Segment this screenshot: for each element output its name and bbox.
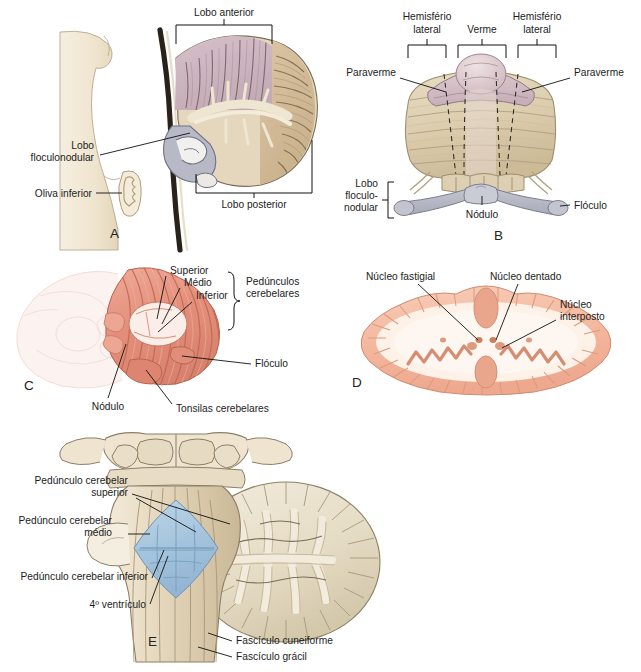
panel-b-label-nodulo: Nódulo xyxy=(466,209,499,220)
panel-e: Pedúnculo cerebelar superior Pedúnculo c… xyxy=(0,428,420,672)
panel-b-bracket-floculonodular xyxy=(382,182,394,218)
panel-a-cerebellum xyxy=(119,30,330,216)
panel-c-brace-pedunculos xyxy=(228,272,240,330)
panel-e-label-ped-superior-line2: superior xyxy=(91,487,128,498)
panel-d: Núcleo fastigial Núcleo dentado Núcleo i… xyxy=(330,252,641,430)
panel-b-label-verme: Verme xyxy=(467,24,497,35)
panel-b-label-floculonodular-line1: Lobo xyxy=(355,178,378,189)
panel-d-label-nucleo-fastigial: Núcleo fastigial xyxy=(366,271,435,282)
panel-d-vermis-superior xyxy=(474,288,498,328)
panel-c-label-inferior: Inferior xyxy=(196,290,228,301)
panel-b-label-floculo: Flóculo xyxy=(574,200,607,211)
panel-b-label-paraverme-dir: Paraverme xyxy=(574,67,624,78)
panel-c: Superior Médio Inferior Pedúnculos cereb… xyxy=(0,252,340,430)
panel-e-letter: E xyxy=(148,634,157,649)
panel-b-bracket-hemisfero-dir xyxy=(518,39,556,58)
panel-a-label-lobo-anterior: Lobo anterior xyxy=(194,7,255,18)
panel-c-label-nodulo: Nódulo xyxy=(92,401,125,412)
panel-c-label-superior: Superior xyxy=(170,265,209,276)
panel-a-label-lobo-posterior: Lobo posterior xyxy=(221,199,287,210)
panel-b-label-hemisferio-esq-line1: Hemisfério xyxy=(403,11,452,22)
panel-c-label-floculo: Flóculo xyxy=(255,358,288,369)
panel-d-label-nucleo-dentado: Núcleo dentado xyxy=(490,271,562,282)
panel-c-label-medio: Médio xyxy=(184,277,212,288)
panel-c-label-tonsilas: Tonsilas cerebelares xyxy=(176,403,269,414)
panel-b-cerebellum xyxy=(394,54,568,216)
panel-d-label-nucleo-interposto-line1: Núcleo xyxy=(560,299,592,310)
panel-b-label-hemisferio-esq-line2: lateral xyxy=(413,24,441,35)
panel-c-label-pedunculos-line2: cerebelares xyxy=(246,288,299,299)
panel-b-label-paraverme-esq: Paraverme xyxy=(346,67,396,78)
panel-d-vermis-inferior xyxy=(475,356,497,388)
panel-b-label-hemisferio-dir-line1: Hemisfério xyxy=(513,11,562,22)
panel-b-label-hemisferio-dir-line2: lateral xyxy=(523,24,551,35)
panel-b-bracket-hemisfero-esq xyxy=(408,39,446,58)
panel-b-letter: B xyxy=(494,228,503,243)
anatomy-figure: Lobo anterior Lobo posterior Lobo flocul… xyxy=(0,0,641,672)
panel-b-label-floculonodular-line3: nodular xyxy=(344,202,379,213)
panel-e-label-ped-medio-line2: médio xyxy=(84,527,112,538)
panel-a-inferior-olive xyxy=(119,171,141,216)
panel-e-label-fasc-gracil: Fascículo grácil xyxy=(236,651,307,662)
panel-d-letter: D xyxy=(352,375,362,390)
panel-e-label-ped-inferior: Pedúnculo cerebelar inferior xyxy=(21,571,149,582)
panel-a-label-lobo-floculonodular-line1: Lobo xyxy=(71,140,94,151)
panel-a-label-oliva-inferior: Oliva inferior xyxy=(35,188,93,199)
panel-c-label-pedunculos-line1: Pedúnculos xyxy=(246,276,299,287)
panel-a-label-lobo-floculonodular-line2: floculonodular xyxy=(31,152,95,163)
panel-d-label-nucleo-interposto-line2: interposto xyxy=(560,311,605,322)
panel-c-peduncles xyxy=(129,302,187,346)
panel-b: Hemisfério lateral Verme Hemisfério late… xyxy=(330,0,641,250)
panel-e-label-ped-superior-line1: Pedúnculo cerebelar xyxy=(35,475,129,486)
panel-e-label-ped-medio-line1: Pedúnculo cerebelar xyxy=(19,515,113,526)
panel-a: Lobo anterior Lobo posterior Lobo flocul… xyxy=(0,0,330,250)
panel-b-label-floculonodular-line2: floculo- xyxy=(345,190,378,201)
panel-a-letter: A xyxy=(110,226,119,241)
panel-e-label-fasc-cuneiforme: Fascículo cuneiforme xyxy=(236,635,333,646)
panel-e-label-ventriculo: 4º ventrículo xyxy=(90,599,147,610)
panel-c-letter: C xyxy=(24,378,34,393)
